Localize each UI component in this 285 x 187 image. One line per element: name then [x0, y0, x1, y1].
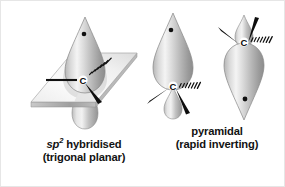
unpaired-electron-dot-1 [82, 32, 87, 37]
caption-sp2-rest: hybridised [63, 138, 121, 150]
unpaired-electron-dot-2 [169, 28, 174, 33]
caption-pyramidal-line2: (rapid inverting) [151, 138, 283, 151]
caption-sp2-line1: sp2 hybridised [9, 137, 159, 151]
caption-pyramidal-line1: pyramidal [151, 125, 283, 138]
structure-pyramidal-down: C [147, 13, 200, 119]
figure-root: C [0, 0, 285, 187]
atom-label-carbon-2: C [168, 81, 177, 92]
sp3-orbital-large-lobe-3 [224, 43, 264, 120]
caption-sp2-line2: (trigonal planar) [9, 151, 159, 164]
atom-label-text-1: C [80, 75, 87, 86]
atom-label-carbon-3: C [239, 37, 248, 48]
sp3-orbital-large-lobe-2 [153, 13, 193, 90]
atom-label-text-3: C [241, 37, 248, 48]
caption-sp2-italic: sp [47, 138, 60, 150]
bond-hashed-wedge-right-3 [251, 37, 272, 43]
caption-pyramidal: pyramidal (rapid inverting) [151, 125, 283, 151]
structure-pyramidal-up: C [218, 15, 272, 120]
atom-label-carbon-1: C [78, 75, 87, 86]
sp3-orbital-small-lobe-2 [164, 87, 182, 119]
unpaired-electron-dot-3 [243, 97, 248, 102]
caption-sp2-hybridised: sp2 hybridised (trigonal planar) [9, 137, 159, 164]
structure-sp2-hybridised: C [31, 17, 137, 129]
atom-label-text-2: C [170, 81, 177, 92]
